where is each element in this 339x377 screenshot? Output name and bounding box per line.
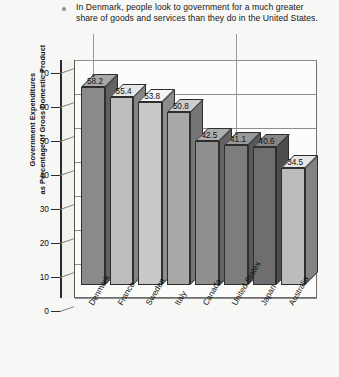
y-axis-tick bbox=[51, 141, 60, 142]
bar-value-label: 34.5 bbox=[287, 159, 303, 167]
bar-front-face bbox=[281, 168, 305, 285]
y-axis-tick bbox=[51, 243, 60, 244]
y-axis-tick-label: 60 bbox=[40, 103, 49, 111]
y-axis-title: Government Expenditures as Percentage of… bbox=[28, 20, 47, 220]
bar-column bbox=[195, 141, 219, 286]
grid-line bbox=[75, 298, 317, 299]
bar-value-label: 53.8 bbox=[144, 93, 160, 101]
bar-column bbox=[224, 145, 248, 285]
bar-column bbox=[138, 102, 162, 285]
leader-line-dot bbox=[92, 74, 95, 77]
bullet-dot-icon bbox=[62, 7, 66, 11]
y-axis-tick-label: 10 bbox=[40, 273, 49, 281]
y-axis-tick bbox=[51, 277, 60, 278]
bar-value-label: 55.4 bbox=[116, 88, 132, 96]
callout-note-text: In Denmark, people look to government fo… bbox=[76, 2, 324, 24]
leader-line bbox=[236, 34, 237, 133]
bar-column bbox=[110, 97, 134, 285]
bar-column bbox=[167, 112, 191, 285]
y-axis-tick-label: 20 bbox=[40, 239, 49, 247]
bar-front-face bbox=[81, 87, 105, 285]
bar-value-label: 41.1 bbox=[230, 136, 246, 144]
bar-front-face bbox=[195, 141, 219, 286]
plot-inner-edge bbox=[74, 60, 75, 298]
y-axis-tick bbox=[51, 73, 60, 74]
chart-figure: In Denmark, people look to government fo… bbox=[0, 0, 339, 377]
bar-front-face bbox=[138, 102, 162, 285]
bar-front-face bbox=[167, 112, 191, 285]
grid-line-depth bbox=[60, 306, 75, 312]
y-axis-tick-label: 0 bbox=[44, 307, 49, 315]
bar-value-label: 42.5 bbox=[201, 132, 217, 140]
y-axis-tick bbox=[51, 311, 60, 312]
bar-value-label: 40.6 bbox=[259, 138, 275, 146]
leader-line bbox=[93, 34, 94, 75]
y-axis-tick-label: 40 bbox=[40, 171, 49, 179]
y-axis-line bbox=[60, 60, 62, 298]
callout-note: In Denmark, people look to government fo… bbox=[62, 2, 324, 24]
y-axis-tick bbox=[51, 209, 60, 210]
y-axis-tick-label: 50 bbox=[40, 137, 49, 145]
plot-side-wall bbox=[60, 60, 75, 298]
y-axis-tick-label: 30 bbox=[40, 205, 49, 213]
bar-front-face bbox=[224, 145, 248, 285]
bar-column bbox=[81, 87, 105, 285]
bar-column bbox=[281, 168, 305, 285]
bar-value-label: 50.8 bbox=[173, 103, 189, 111]
bar-front-face bbox=[110, 97, 134, 285]
y-axis-tick-label: 70 bbox=[40, 69, 49, 77]
grid-line bbox=[75, 60, 317, 61]
bar-value-label: 58.2 bbox=[87, 78, 103, 86]
plot-area: 706050403020100 58.255.453.850.842.541.1… bbox=[60, 60, 317, 298]
y-axis-tick bbox=[51, 175, 60, 176]
y-axis-title-line1: Government Expenditures bbox=[28, 20, 38, 220]
bar-side-face bbox=[305, 155, 318, 285]
y-axis-title-line2: as Percentage of Gross Domestic Product bbox=[38, 20, 48, 220]
y-axis-tick bbox=[51, 107, 60, 108]
